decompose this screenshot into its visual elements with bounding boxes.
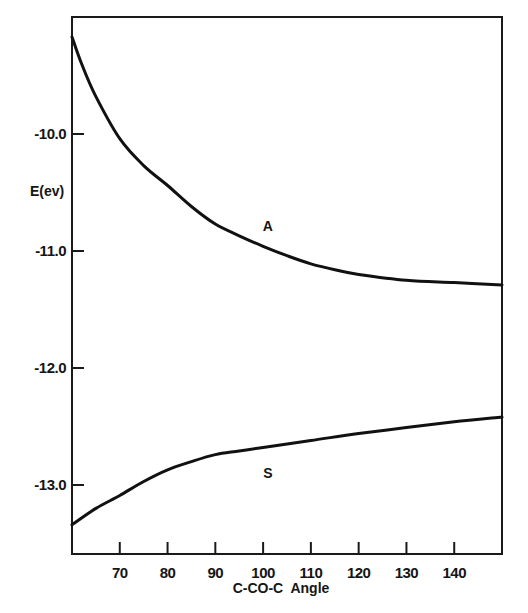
- x-tick-label: 110: [300, 564, 323, 581]
- y-tick-label: -11.0: [35, 242, 66, 259]
- x-axis-label: C-CO-C Angle: [233, 580, 330, 596]
- x-tick-label: 80: [160, 564, 176, 581]
- curve-s: [72, 417, 502, 525]
- x-tick-label: 90: [207, 564, 223, 581]
- energy-vs-angle-chart: -10.0-11.0-12.0-13.0 7080901001101201301…: [0, 0, 528, 613]
- x-tick-label: 100: [251, 564, 275, 581]
- curves: AS: [72, 37, 502, 525]
- curve-label-a: A: [263, 218, 273, 234]
- curve-label-s: S: [263, 465, 272, 481]
- curve-a: [72, 37, 502, 285]
- y-tick-label: -10.0: [34, 125, 66, 142]
- x-tick-label: 70: [112, 564, 128, 581]
- y-axis-label: E(ev): [30, 183, 64, 199]
- x-tick-label: 130: [395, 564, 419, 581]
- plot-frame: [72, 17, 502, 554]
- x-axis-ticks: 708090100110120130140: [112, 542, 466, 581]
- x-tick-label: 140: [442, 564, 466, 581]
- y-tick-label: -13.0: [34, 476, 66, 493]
- y-tick-label: -12.0: [34, 359, 66, 376]
- y-axis-ticks: -10.0-11.0-12.0-13.0: [34, 125, 84, 493]
- x-tick-label: 120: [347, 564, 371, 581]
